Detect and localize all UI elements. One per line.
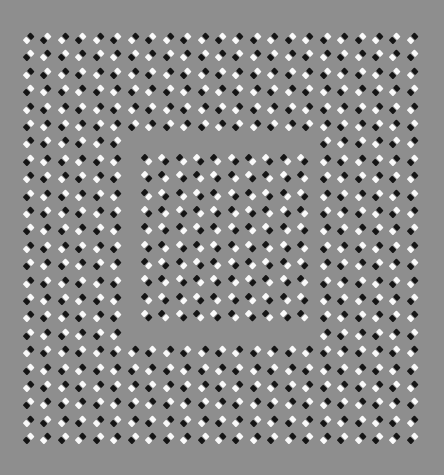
dash-segment <box>214 193 222 201</box>
outer-dash-pair <box>389 206 402 219</box>
dash-segment <box>197 279 205 287</box>
dash-segment <box>180 175 188 183</box>
dash-segment <box>214 279 222 287</box>
outer-dash-pair <box>110 66 123 79</box>
inner-dash-pair <box>279 206 292 219</box>
outer-dash-pair <box>58 32 71 45</box>
outer-dash-pair <box>75 362 88 375</box>
dash-segment <box>266 227 274 235</box>
outer-dash-pair <box>319 345 332 358</box>
inner-dash-pair <box>158 154 171 167</box>
outer-dash-pair <box>197 32 210 45</box>
outer-dash-pair <box>372 66 385 79</box>
outer-dash-pair <box>197 397 210 410</box>
outer-dash-pair <box>354 397 367 410</box>
inner-dash-pair <box>210 188 223 201</box>
outer-dash-pair <box>389 66 402 79</box>
outer-dash-pair <box>337 171 350 184</box>
inner-dash-pair <box>279 154 292 167</box>
dash-segment <box>197 262 205 270</box>
outer-dash-pair <box>337 380 350 393</box>
dash-segment <box>145 175 153 183</box>
inner-dash-pair <box>279 188 292 201</box>
inner-dash-pair <box>175 240 188 253</box>
outer-dash-pair <box>23 414 36 427</box>
outer-dash-pair <box>75 49 88 62</box>
outer-dash-pair <box>40 153 53 166</box>
outer-dash-pair <box>58 84 71 97</box>
outer-dash-pair <box>372 310 385 323</box>
outer-dash-pair <box>319 188 332 201</box>
outer-dash-pair <box>197 49 210 62</box>
outer-dash-pair <box>372 414 385 427</box>
outer-dash-pair <box>75 327 88 340</box>
outer-dash-pair <box>407 414 420 427</box>
outer-dash-pair <box>302 101 315 114</box>
outer-dash-pair <box>145 397 158 410</box>
outer-dash-pair <box>407 206 420 219</box>
inner-dash-pair <box>262 292 275 305</box>
outer-dash-pair <box>75 345 88 358</box>
inner-dash-pair <box>245 292 258 305</box>
inner-dash-pair <box>141 258 154 271</box>
outer-dash-pair <box>319 206 332 219</box>
outer-dash-pair <box>302 66 315 79</box>
outer-dash-pair <box>180 66 193 79</box>
outer-dash-pair <box>58 327 71 340</box>
outer-dash-pair <box>215 119 228 132</box>
outer-dash-pair <box>92 327 105 340</box>
outer-dash-pair <box>58 49 71 62</box>
dash-segment <box>145 227 153 235</box>
outer-dash-pair <box>372 327 385 340</box>
dash-segment <box>162 175 170 183</box>
outer-dash-pair <box>232 345 245 358</box>
inner-dash-pair <box>245 258 258 271</box>
outer-dash-pair <box>75 432 88 445</box>
outer-dash-pair <box>75 119 88 132</box>
outer-dash-pair <box>389 223 402 236</box>
outer-dash-pair <box>232 84 245 97</box>
dash-segment <box>214 245 222 253</box>
outer-dash-pair <box>145 414 158 427</box>
outer-dash-pair <box>145 32 158 45</box>
outer-dash-pair <box>337 293 350 306</box>
inner-dash-pair <box>297 188 310 201</box>
inner-dash-pair <box>262 206 275 219</box>
outer-dash-pair <box>127 119 140 132</box>
dash-segment <box>162 297 170 305</box>
outer-dash-pair <box>337 153 350 166</box>
inner-dash-pair <box>141 223 154 236</box>
outer-dash-pair <box>372 362 385 375</box>
outer-dash-pair <box>58 171 71 184</box>
inner-dash-pair <box>141 240 154 253</box>
dash-segment <box>301 227 309 235</box>
outer-dash-pair <box>40 136 53 149</box>
outer-dash-pair <box>267 49 280 62</box>
outer-dash-pair <box>110 414 123 427</box>
outer-dash-pair <box>92 171 105 184</box>
dash-segment <box>266 245 274 253</box>
outer-dash-pair <box>110 188 123 201</box>
dash-segment <box>145 279 153 287</box>
outer-dash-pair <box>389 171 402 184</box>
dash-segment <box>162 245 170 253</box>
outer-dash-pair <box>127 49 140 62</box>
outer-dash-pair <box>110 240 123 253</box>
outer-dash-pair <box>407 101 420 114</box>
outer-dash-pair <box>162 397 175 410</box>
outer-dash-pair <box>92 380 105 393</box>
inner-dash-pair <box>245 310 258 323</box>
outer-dash-pair <box>197 362 210 375</box>
outer-dash-pair <box>337 84 350 97</box>
outer-dash-pair <box>354 188 367 201</box>
inner-dash-pair <box>245 188 258 201</box>
outer-dash-pair <box>389 345 402 358</box>
outer-dash-pair <box>197 414 210 427</box>
outer-dash-pair <box>337 362 350 375</box>
dash-segment <box>162 262 170 270</box>
outer-dash-pair <box>58 119 71 132</box>
inner-dash-pair <box>227 275 240 288</box>
outer-dash-pair <box>284 345 297 358</box>
inner-dash-pair <box>175 188 188 201</box>
outer-dash-pair <box>110 153 123 166</box>
